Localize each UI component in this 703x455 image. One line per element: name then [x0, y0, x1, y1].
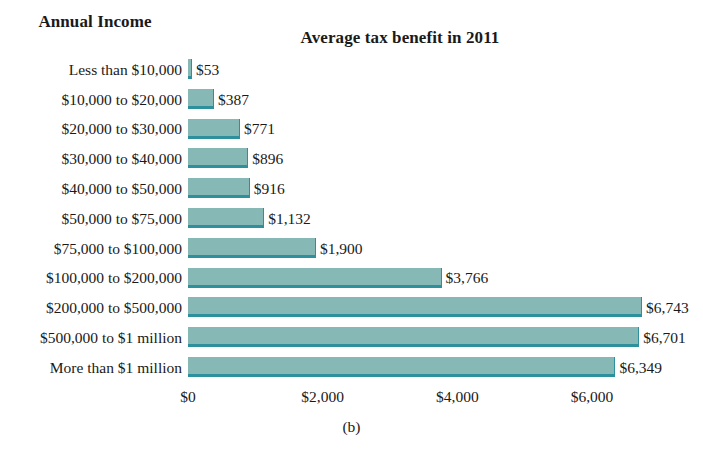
x-tick-label: $2,000 [301, 388, 344, 406]
category-label: Less than $10,000 [0, 62, 182, 78]
bar-row: $200,000 to $500,000$6,743 [0, 293, 703, 323]
x-tick-label: $4,000 [436, 388, 479, 406]
category-label: $40,000 to $50,000 [0, 181, 182, 197]
bar [188, 268, 442, 288]
bar [188, 238, 316, 258]
bar [188, 178, 250, 198]
bar [188, 327, 639, 347]
bar-track: $6,701 [188, 323, 703, 353]
category-label: More than $1 million [0, 360, 182, 376]
bar-row: $500,000 to $1 million$6,701 [0, 323, 703, 353]
bar-row: More than $1 million$6,349 [0, 353, 703, 383]
bar-value-label: $387 [214, 92, 249, 108]
bar [188, 119, 240, 139]
bar-track: $3,766 [188, 264, 703, 294]
bar-track: $53 [188, 55, 703, 85]
bar-row: $30,000 to $40,000$896 [0, 144, 703, 174]
bar-value-label: $6,349 [615, 360, 662, 376]
bar-row: $75,000 to $100,000$1,900 [0, 234, 703, 264]
plot-area: Less than $10,000$53$10,000 to $20,000$3… [0, 55, 703, 387]
bar-value-label: $896 [248, 152, 283, 168]
category-label: $100,000 to $200,000 [0, 271, 182, 287]
category-label: $20,000 to $30,000 [0, 122, 182, 138]
x-axis: $0$2,000$4,000$6,000 [0, 388, 703, 412]
bar-row: $50,000 to $75,000$1,132 [0, 204, 703, 234]
bar-chart-figure: Annual Income Average tax benefit in 201… [0, 0, 703, 455]
category-label: $10,000 to $20,000 [0, 92, 182, 108]
bar [188, 89, 214, 109]
bar-track: $896 [188, 144, 703, 174]
category-label: $200,000 to $500,000 [0, 301, 182, 317]
bar-track: $916 [188, 174, 703, 204]
bar [188, 208, 264, 228]
category-label: $50,000 to $75,000 [0, 211, 182, 227]
bar-row: $40,000 to $50,000$916 [0, 174, 703, 204]
bar-value-label: $771 [240, 122, 275, 138]
bar-row: $10,000 to $20,000$387 [0, 85, 703, 115]
bar-track: $6,349 [188, 353, 703, 383]
bar-track: $771 [188, 115, 703, 145]
bar-value-label: $53 [192, 62, 219, 78]
figure-caption: (b) [0, 418, 703, 436]
bar [188, 297, 642, 317]
bar-value-label: $916 [250, 181, 285, 197]
bar [188, 148, 248, 168]
category-label: $75,000 to $100,000 [0, 241, 182, 257]
category-label: $30,000 to $40,000 [0, 152, 182, 168]
bar-track: $387 [188, 85, 703, 115]
category-label: $500,000 to $1 million [0, 330, 182, 346]
bar-value-label: $1,900 [316, 241, 363, 257]
bar-value-label: $6,701 [639, 330, 686, 346]
x-tick-label: $0 [180, 388, 196, 406]
bar-row: $20,000 to $30,000$771 [0, 115, 703, 145]
bar-value-label: $6,743 [642, 301, 689, 317]
bar-row: $100,000 to $200,000$3,766 [0, 264, 703, 294]
bar-value-label: $3,766 [442, 271, 489, 287]
bar [188, 357, 615, 377]
bar-track: $1,132 [188, 204, 703, 234]
chart-title: Average tax benefit in 2011 [190, 28, 610, 48]
bar-track: $1,900 [188, 234, 703, 264]
annual-income-header: Annual Income [0, 12, 190, 32]
bar-track: $6,743 [188, 293, 703, 323]
x-tick-label: $6,000 [571, 388, 614, 406]
bar-value-label: $1,132 [264, 211, 311, 227]
bar-row: Less than $10,000$53 [0, 55, 703, 85]
